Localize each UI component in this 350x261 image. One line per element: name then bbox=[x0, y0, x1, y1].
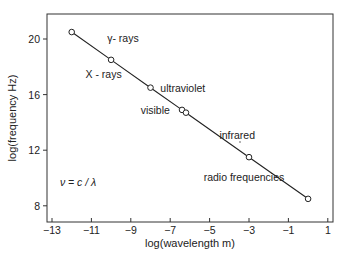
annotation-label: radio frequencies bbox=[204, 171, 285, 183]
annotation-label: γ- rays bbox=[107, 32, 139, 44]
data-point bbox=[69, 29, 75, 35]
x-tick-label: −13 bbox=[43, 224, 61, 236]
data-point bbox=[305, 196, 311, 202]
y-tick-label: 8 bbox=[34, 200, 40, 212]
x-axis-ticks: −13−11−9−7−5−3−11 bbox=[43, 218, 331, 236]
data-point bbox=[108, 57, 114, 63]
x-tick-label: −1 bbox=[282, 224, 294, 236]
data-point bbox=[246, 154, 252, 160]
annotations: γ- raysX - raysultravioletvisibleinfrare… bbox=[60, 32, 284, 189]
chart: −13−11−9−7−5−3−11 8121620 log(wavelength… bbox=[0, 0, 350, 261]
y-axis-ticks: 8121620 bbox=[28, 33, 47, 212]
x-axis-label: log(wavelength m) bbox=[145, 237, 235, 249]
annotation-label: ultraviolet bbox=[160, 82, 205, 94]
x-tick-label: 1 bbox=[325, 224, 331, 236]
x-tick-label: −5 bbox=[204, 224, 216, 236]
y-axis-label: log(frequency Hz) bbox=[6, 75, 18, 162]
x-tick-label: −11 bbox=[83, 224, 100, 236]
annotation-label: infrared bbox=[219, 129, 255, 141]
y-tick-label: 20 bbox=[28, 33, 40, 45]
x-tick-label: −7 bbox=[164, 224, 176, 236]
x-tick-label: −3 bbox=[243, 224, 255, 236]
annotation-label: ν = c / λ bbox=[60, 176, 96, 188]
x-tick-label: −9 bbox=[125, 224, 137, 236]
stray-dot bbox=[239, 141, 241, 143]
y-tick-label: 12 bbox=[28, 144, 40, 156]
data-point bbox=[148, 85, 154, 91]
y-tick-label: 16 bbox=[28, 89, 40, 101]
annotation-label: X - rays bbox=[85, 68, 121, 80]
data-point bbox=[183, 110, 189, 116]
annotation-label: visible bbox=[141, 104, 170, 116]
